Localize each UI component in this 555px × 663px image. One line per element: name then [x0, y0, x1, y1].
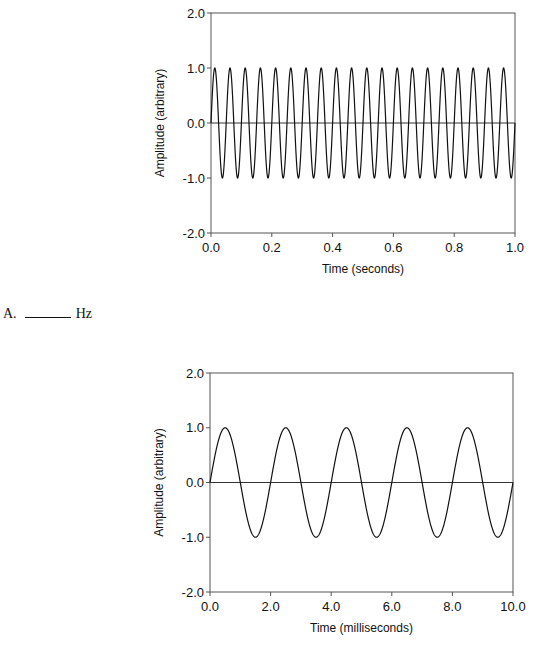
y-tick-label: 0.0 — [186, 475, 204, 490]
x-tick-label: 0.0 — [201, 599, 219, 614]
chart-bottom: 2.01.00.0-1.0-2.00.02.04.06.08.010.0Time… — [0, 0, 555, 663]
chart-bottom-svg: 2.01.00.0-1.0-2.00.02.04.06.08.010.0Time… — [0, 0, 555, 663]
y-axis-label: Amplitude (arbitrary) — [152, 428, 166, 537]
x-axis-label: Time (milliseconds) — [310, 621, 413, 635]
y-tick-label: -2.0 — [182, 585, 204, 600]
x-tick-label: 2.0 — [262, 599, 280, 614]
x-tick-label: 10.0 — [500, 599, 525, 614]
y-tick-label: 1.0 — [186, 420, 204, 435]
y-tick-label: -1.0 — [182, 530, 204, 545]
x-tick-label: 4.0 — [322, 599, 340, 614]
x-tick-label: 8.0 — [443, 599, 461, 614]
y-tick-label: 2.0 — [186, 366, 204, 381]
x-tick-label: 6.0 — [383, 599, 401, 614]
